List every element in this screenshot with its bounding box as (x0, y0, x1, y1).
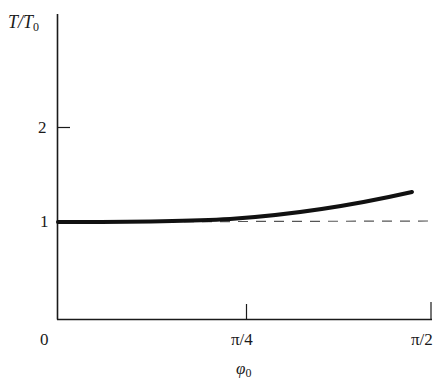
x-axis-label-subscript: 0 (245, 366, 251, 380)
y-tick-label-1: 1 (40, 213, 49, 230)
y-tick-label-2: 2 (38, 119, 47, 136)
x-axis-label-main: φ (236, 359, 245, 378)
plot-canvas (0, 0, 440, 380)
x-tick-label-pi-over-4: π/4 (231, 331, 253, 348)
y-axis-label-main: T/T (8, 12, 33, 32)
x-axis-label: φ0 (236, 360, 251, 379)
x-tick-label-pi-over-2: π/2 (411, 331, 433, 348)
y-axis-label-subscript: 0 (33, 20, 39, 34)
x-tick-label-0: 0 (40, 331, 49, 348)
y-axis-label: T/T0 (8, 13, 39, 33)
series-curve-thick (58, 192, 412, 222)
